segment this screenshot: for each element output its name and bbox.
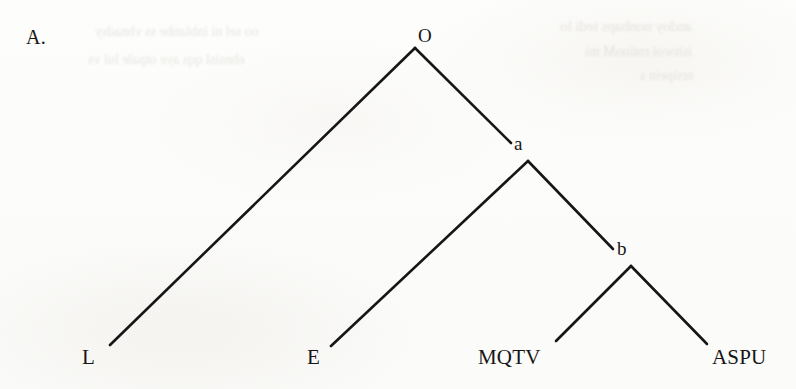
panel-label: A. xyxy=(26,26,46,49)
tree-node-label-b: b xyxy=(617,238,627,260)
tree-branch-b-aspu xyxy=(631,266,707,344)
figure-page: andoy nonbaps tedi loisiswol rotinoM min… xyxy=(0,0,796,389)
tree-leaf-label-aspu: ASPU xyxy=(712,345,767,370)
tree-branch-b-mqtv xyxy=(556,266,631,341)
tree-branch-a-b xyxy=(528,161,613,249)
tree-branch-o-l xyxy=(110,48,415,345)
tree-branch-a-e xyxy=(331,161,528,346)
tree-node-label-o: O xyxy=(418,25,432,47)
tree-branch-o-a xyxy=(415,48,511,143)
tree-leaf-label-l: L xyxy=(82,345,95,370)
tree-leaf-label-e: E xyxy=(307,345,320,370)
cladogram-branches xyxy=(0,0,796,389)
tree-node-label-a: a xyxy=(514,133,522,155)
tree-leaf-label-mqtv: MQTV xyxy=(478,345,541,370)
